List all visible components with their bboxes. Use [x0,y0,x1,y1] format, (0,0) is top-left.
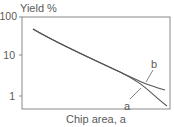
series-b-label: b [151,59,157,70]
x-axis-label: Chip area, a [66,114,126,125]
plot-frame [22,17,170,109]
series-a-label: a [124,101,130,112]
yield-vs-chip-area-chart: Yield % 100 10 1 b a Chip area, a [0,0,174,127]
y-tick-label-1: 1 [0,91,15,102]
series-b-line [33,29,165,90]
series-a-leader [130,88,141,99]
y-axis-label: Yield % [20,3,57,14]
plot-area [0,0,174,127]
y-tick-label-100: 100 [0,11,17,22]
series-b-leader [146,70,153,82]
y-tick-label-10: 10 [0,50,15,61]
